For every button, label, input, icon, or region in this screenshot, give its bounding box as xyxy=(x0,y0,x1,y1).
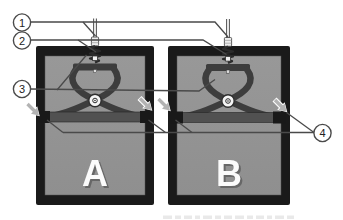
panel-b-label: B xyxy=(216,153,242,194)
callout-1-number: 1 xyxy=(19,17,25,29)
callout-4-number: 4 xyxy=(319,127,325,139)
callout-4: 4 xyxy=(314,124,331,141)
panel-a-label: A xyxy=(82,153,108,194)
cut-off-caption xyxy=(163,216,294,220)
callout-3-number: 3 xyxy=(19,83,25,95)
callout-1: 1 xyxy=(13,14,30,31)
callout-3: 3 xyxy=(13,80,30,97)
diagram-canvas: A B 1 2 3 4 xyxy=(0,0,343,220)
technical-figure: A B 1 2 3 4 xyxy=(0,0,343,220)
leader-4-branch xyxy=(287,113,315,133)
leader-1 xyxy=(31,22,228,37)
callout-2: 2 xyxy=(13,32,30,49)
callout-2-number: 2 xyxy=(19,35,25,47)
